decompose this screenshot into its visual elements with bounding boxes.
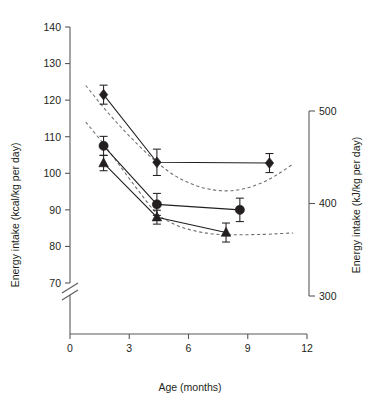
y-tick-label: 140	[43, 21, 61, 33]
diamond-marker	[265, 158, 273, 169]
circle-marker	[152, 200, 161, 209]
left-axis-title: Energy intake (kcal/kg per day)	[9, 143, 21, 288]
circle-marker	[235, 205, 244, 214]
triangle-marker	[99, 158, 109, 167]
right-axis: 300400500	[309, 105, 337, 302]
x-axis-title: Age (months)	[158, 381, 221, 393]
x-axis: 036912	[67, 334, 313, 354]
y-tick-label-right: 400	[319, 197, 337, 209]
x-tick-label: 0	[67, 342, 73, 354]
chart-figure: 708090100110120130140 300400500 036912 E…	[0, 0, 376, 403]
y-tick-label: 110	[44, 131, 61, 143]
y-tick-label: 80	[49, 240, 61, 252]
x-tick-label: 12	[301, 342, 313, 354]
y-tick-label: 100	[43, 167, 61, 179]
series-line	[104, 95, 270, 163]
triangle-series	[99, 155, 231, 242]
lower-reference-curve	[86, 122, 293, 235]
y-tick-label: 90	[49, 204, 61, 216]
x-tick-label: 9	[245, 342, 251, 354]
circle-series	[99, 136, 244, 221]
right-axis-title: Energy intake (kJ/kg per day)	[350, 137, 362, 274]
energy-intake-line-chart: 708090100110120130140 300400500 036912 E…	[0, 0, 376, 403]
y-tick-label-right: 300	[319, 290, 337, 302]
series-line	[104, 163, 226, 232]
y-tick-label-right: 500	[319, 105, 337, 117]
y-tick-label: 120	[43, 94, 61, 106]
y-tick-label: 130	[43, 57, 61, 69]
x-tick-label: 6	[186, 342, 192, 354]
upper-reference-curve	[86, 86, 293, 191]
data-series	[99, 85, 274, 242]
x-tick-label: 3	[126, 342, 132, 354]
left-axis: 708090100110120130140	[43, 21, 78, 334]
y-tick-label: 70	[49, 277, 61, 289]
circle-marker	[99, 141, 108, 150]
diamond-series	[99, 85, 273, 175]
series-line	[104, 146, 240, 210]
